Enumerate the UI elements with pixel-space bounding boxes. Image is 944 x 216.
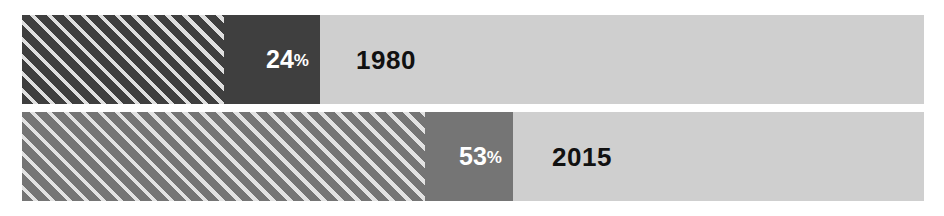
bar-hatch-1980 bbox=[22, 15, 224, 104]
bar-chart: 24% 1980 53% 2015 bbox=[0, 0, 944, 216]
bar-value-number-1980: 24 bbox=[266, 47, 294, 72]
bar-value-label-1980: 24% bbox=[266, 15, 309, 104]
percent-sign-2015: % bbox=[487, 149, 502, 166]
bar-row: 53% 2015 bbox=[22, 112, 924, 201]
bar-category-label-1980: 1980 bbox=[356, 15, 416, 104]
bar-value-label-2015: 53% bbox=[459, 112, 502, 201]
percent-sign-1980: % bbox=[294, 52, 309, 69]
bar-hatch-2015 bbox=[22, 112, 425, 201]
bar-category-label-2015: 2015 bbox=[552, 112, 612, 201]
bar-value-number-2015: 53 bbox=[459, 144, 487, 169]
bar-row: 24% 1980 bbox=[22, 15, 924, 104]
